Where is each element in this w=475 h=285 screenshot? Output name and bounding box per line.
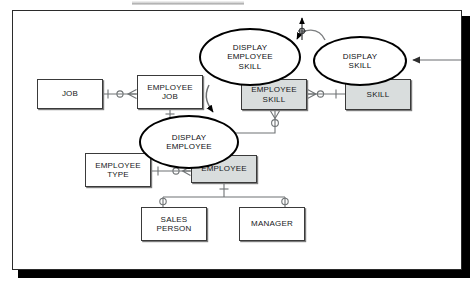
entity-job[interactable]: JOB [37, 79, 103, 109]
screenshot-root: JOB EMPLOYEE JOB EMPLOYEE SKILL SKILL EM… [0, 0, 475, 285]
diagram-frame: JOB EMPLOYEE JOB EMPLOYEE SKILL SKILL EM… [12, 10, 462, 270]
marker-crowsfoot-empskill [308, 90, 317, 99]
flow-displayskill-to-displayempskill [297, 30, 325, 40]
process-display-employee[interactable]: DISPLAY EMPLOYEE [139, 115, 239, 169]
entity-sales-person[interactable]: SALES PERSON [141, 207, 207, 241]
entity-employee-job[interactable]: EMPLOYEE JOB [137, 75, 203, 109]
marker-crowsfoot-employeejob [128, 90, 137, 99]
process-display-employee-skill[interactable]: DISPLAY EMPLOYEE SKILL [199, 28, 301, 86]
entity-manager[interactable]: MANAGER [239, 207, 305, 241]
line-employee-subtypes [163, 183, 285, 207]
page-top-edge-artifact [132, 1, 244, 5]
flow-displayempskill-to-displayemployee [206, 85, 213, 112]
process-display-skill[interactable]: DISPLAY SKILL [313, 36, 407, 86]
entity-employee-type[interactable]: EMPLOYEE TYPE [85, 153, 151, 187]
